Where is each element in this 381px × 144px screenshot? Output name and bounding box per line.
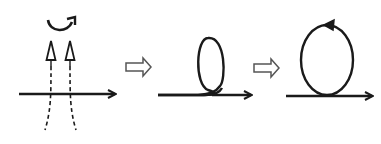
twisted-loop-line — [158, 38, 224, 95]
rotation-arrow-icon — [48, 17, 75, 30]
hollow-up-arrow-right-icon — [66, 41, 75, 66]
stage-1-twist-diagram — [19, 17, 115, 130]
closed-loop-circle — [301, 25, 353, 95]
transition-arrow-2-icon — [254, 59, 279, 77]
hollow-up-arrow-left-icon — [47, 41, 56, 66]
stage-2-forming-loop — [158, 38, 251, 95]
loop-direction-arrowhead-icon — [324, 20, 334, 30]
dashed-line-left — [45, 66, 51, 130]
diagram-canvas — [0, 0, 381, 144]
stage-3-closed-loop — [286, 20, 372, 96]
transition-arrow-1-icon — [126, 58, 151, 76]
dashed-line-right — [70, 66, 76, 130]
